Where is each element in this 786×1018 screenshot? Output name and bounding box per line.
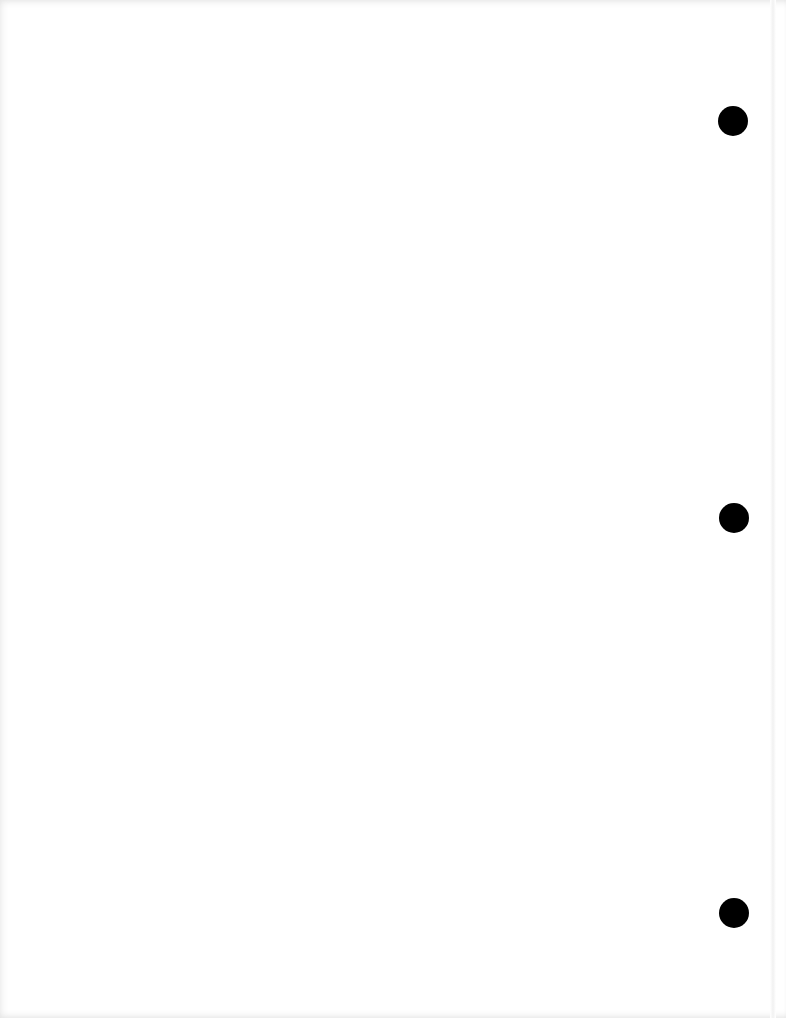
punch-hole-middle [719,503,749,533]
punch-hole-bottom [719,898,749,928]
blank-page [0,0,786,1018]
punch-hole-top [718,106,748,136]
page-edge-shadow [770,0,776,1018]
